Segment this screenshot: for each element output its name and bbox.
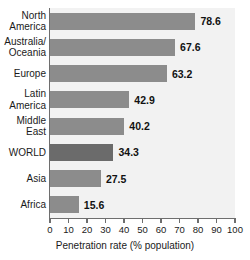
bar (50, 196, 79, 213)
category-label-line: America (9, 100, 46, 112)
x-axis-tick (216, 219, 217, 223)
category-label: WORLD (0, 139, 46, 165)
x-axis-tick-label: 80 (193, 224, 204, 235)
x-axis-tick (105, 219, 106, 223)
x-axis-tick-label: 10 (63, 224, 74, 235)
bar-value-label: 34.3 (118, 139, 138, 165)
x-axis-tick (160, 219, 161, 223)
category-label-line: East (26, 126, 46, 138)
bar (50, 39, 175, 56)
category-label: NorthAmerica (0, 8, 46, 34)
category-label-line: WORLD (9, 147, 46, 159)
x-axis-tick-label: 40 (119, 224, 130, 235)
x-axis-tick-label: 30 (100, 224, 111, 235)
x-axis-tick-label: 50 (137, 224, 148, 235)
category-label: MiddleEast (0, 113, 46, 139)
bar (50, 13, 195, 30)
bar-value-label: 40.2 (129, 113, 149, 139)
category-label-line: Oceania (9, 47, 46, 59)
x-axis-tick (142, 219, 143, 223)
x-axis-tick-label: 0 (47, 224, 52, 235)
x-axis-tick (234, 219, 235, 223)
bar (50, 170, 101, 187)
category-label: Asia (0, 166, 46, 192)
x-axis-tick-label: 100 (227, 224, 243, 235)
category-label-line: Middle (17, 115, 46, 127)
category-label-line: Africa (20, 199, 46, 211)
bar-value-label: 27.5 (106, 166, 126, 192)
category-label-line: Asia (27, 173, 46, 185)
category-label: Europe (0, 61, 46, 87)
x-axis-tick (123, 219, 124, 223)
bar-value-label: 42.9 (134, 87, 154, 113)
category-label-line: Australia/ (4, 36, 46, 48)
category-label: Africa (0, 192, 46, 218)
x-axis-tick-label: 70 (174, 224, 185, 235)
category-label-line: America (9, 21, 46, 33)
x-axis-tick (86, 219, 87, 223)
category-label: LatinAmerica (0, 87, 46, 113)
bar (50, 144, 113, 161)
x-axis-tick (49, 219, 50, 223)
bar (50, 91, 129, 108)
chart-bar-row: MiddleEast40.2 (0, 113, 250, 139)
category-label: Australia/Oceania (0, 34, 46, 60)
chart-bar-row: NorthAmerica78.6 (0, 8, 250, 34)
x-axis-tick-label: 60 (156, 224, 167, 235)
chart-bar-row: Africa15.6 (0, 192, 250, 218)
x-axis-tick (68, 219, 69, 223)
category-label-line: Europe (14, 68, 46, 80)
x-axis-tick (179, 219, 180, 223)
x-axis-tick-label: 20 (82, 224, 93, 235)
bar-chart: NorthAmerica78.6Australia/Oceania67.6Eur… (0, 0, 250, 260)
x-axis-tick-label: 90 (211, 224, 222, 235)
bar-value-label: 15.6 (84, 192, 104, 218)
bar (50, 118, 124, 135)
bar (50, 65, 167, 82)
bar-value-label: 78.6 (200, 8, 220, 34)
x-axis-title: Penetration rate (% population) (0, 240, 250, 252)
chart-bar-row: Europe63.2 (0, 61, 250, 87)
chart-bar-row: Asia27.5 (0, 166, 250, 192)
chart-bar-row: Australia/Oceania67.6 (0, 34, 250, 60)
chart-bar-row: LatinAmerica42.9 (0, 87, 250, 113)
category-label-line: North (22, 10, 46, 22)
bar-value-label: 63.2 (172, 61, 192, 87)
bar-value-label: 67.6 (180, 34, 200, 60)
chart-bar-row: WORLD34.3 (0, 139, 250, 165)
x-axis-tick (197, 219, 198, 223)
category-label-line: Latin (24, 88, 46, 100)
